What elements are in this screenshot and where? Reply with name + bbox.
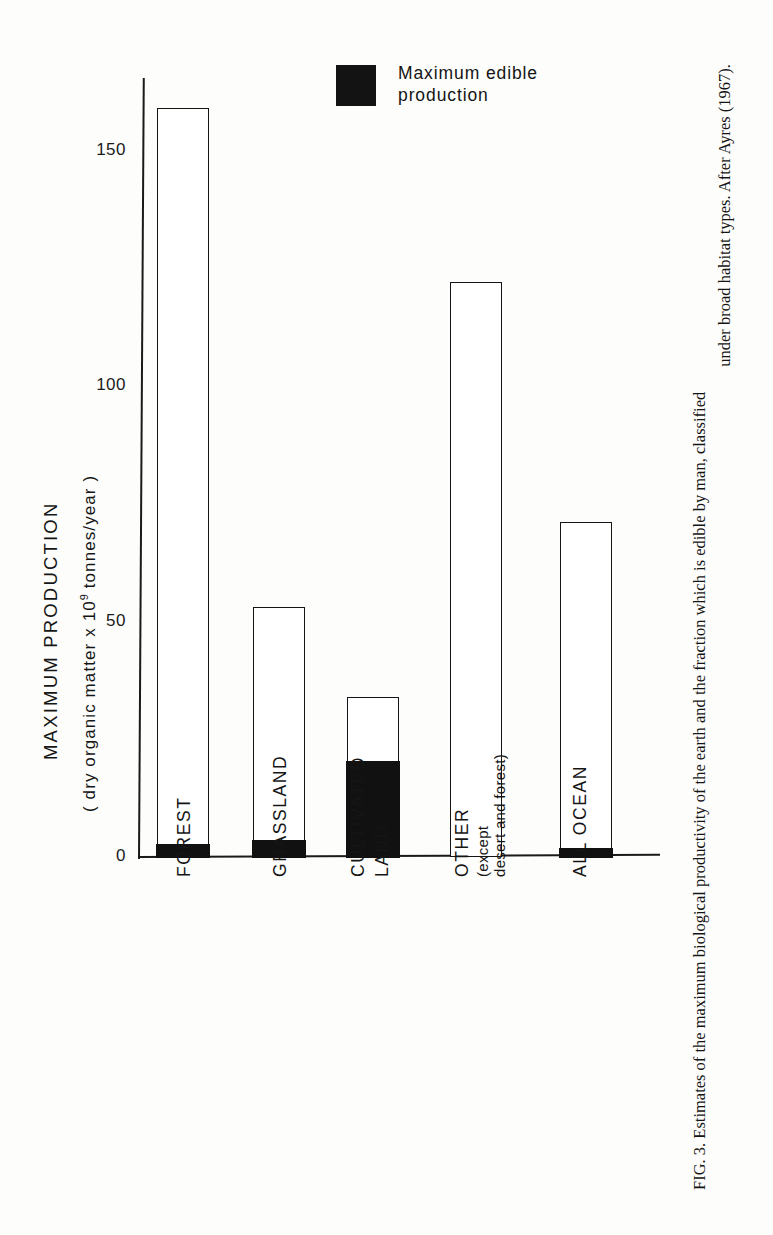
y-axis-units-pre: ( dry organic matter x 10 xyxy=(80,600,99,812)
y-tick-150: 150 xyxy=(80,140,126,160)
x-label-grassland: GRASSLAND xyxy=(270,755,291,877)
y-tick-0: 0 xyxy=(80,846,126,866)
y-axis-line xyxy=(138,78,145,859)
figure-number: FIG. 3. xyxy=(690,1143,709,1190)
figure-3: 150 100 50 0 FOREST GRASSLAND CULTIVATED… xyxy=(0,0,680,1235)
bar-chart-plot: 150 100 50 0 FOREST GRASSLAND CULTIVATED… xyxy=(0,0,680,1235)
x-label-forest: FOREST xyxy=(174,796,195,877)
bar-forest xyxy=(157,108,209,857)
x-label-all-ocean: ALL OCEAN xyxy=(570,765,591,877)
y-axis-units: ( dry organic matter x 109 tonnes/year ) xyxy=(78,475,100,812)
y-tick-100: 100 xyxy=(80,375,126,395)
figure-caption: FIG. 3. Estimates of the maximum biologi… xyxy=(688,60,738,1190)
x-label-other: OTHER xyxy=(452,808,473,877)
legend-swatch-edible xyxy=(336,65,376,106)
figure-caption-line2: under broad habitat types. After Ayres (… xyxy=(713,60,738,1190)
x-label-other-sub-line: desert and forest) xyxy=(491,754,508,877)
x-label-other-sub-line: (except xyxy=(474,754,491,877)
y-axis-units-post: tonnes/year ) xyxy=(80,475,99,594)
x-label-other-sub: (exceptdesert and forest) xyxy=(474,754,509,877)
legend-label-edible: Maximum edible production xyxy=(398,62,538,107)
y-axis-title: MAXIMUM PRODUCTION xyxy=(40,501,62,760)
legend: Maximum edible production xyxy=(336,62,538,107)
figure-caption-line1: Estimates of the maximum biological prod… xyxy=(690,392,709,1139)
x-label-cultivated-land: LAND xyxy=(372,824,393,877)
x-label-cultivated: CULTIVATED xyxy=(348,756,369,877)
y-axis-units-exponent: 9 xyxy=(78,594,90,600)
